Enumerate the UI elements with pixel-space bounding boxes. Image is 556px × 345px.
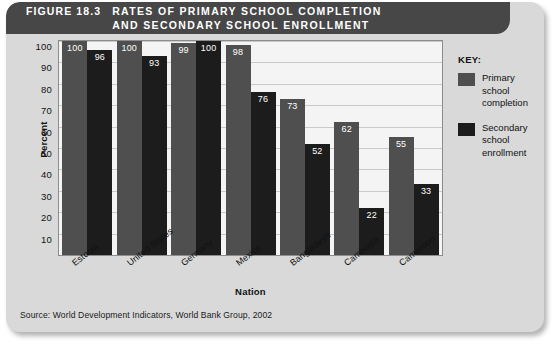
bar-value-label: 100 xyxy=(117,43,142,53)
y-tick-30: 30 xyxy=(26,190,52,201)
bar-value-label: 55 xyxy=(389,139,414,149)
bar-group: 6222 xyxy=(333,41,385,255)
bar-group: 99100 xyxy=(170,41,222,255)
legend-label: Primary school completion xyxy=(482,72,542,110)
bars-layer: 1009610093991009876735262225533 xyxy=(59,41,442,255)
bar: 93 xyxy=(142,56,167,255)
bar-group: 10096 xyxy=(61,41,113,255)
y-tick-100: 100 xyxy=(26,41,52,52)
bar-value-label: 98 xyxy=(226,47,251,57)
bar-value-label: 62 xyxy=(334,124,359,134)
figure-number: FIGURE 18.3 xyxy=(26,5,101,17)
bar-value-label: 52 xyxy=(305,146,330,156)
bar-group: 10093 xyxy=(116,41,168,255)
bar-group: 7352 xyxy=(279,41,331,255)
x-axis-tick-labels: EstoniaUnited StatesGermanyMexicoBanglad… xyxy=(58,258,443,304)
bar-value-label: 22 xyxy=(359,210,384,220)
y-tick-10: 10 xyxy=(26,233,52,244)
bar-value-label: 99 xyxy=(171,45,196,55)
y-tick-70: 70 xyxy=(26,105,52,116)
bar: 100 xyxy=(196,41,221,255)
bar-value-label: 100 xyxy=(196,43,221,53)
chart-legend: KEY: Primary school completionSecondary … xyxy=(458,54,542,171)
bar-value-label: 96 xyxy=(87,52,112,62)
y-axis-tick-labels: 102030405060708090100 xyxy=(26,40,52,256)
bar-value-label: 93 xyxy=(142,58,167,68)
legend-items: Primary school completionSecondary schoo… xyxy=(458,72,542,159)
y-tick-80: 80 xyxy=(26,83,52,94)
bar: 76 xyxy=(251,92,276,255)
source-note: Source: World Development Indicators, Wo… xyxy=(20,310,272,320)
title-row: FIGURE 18.3 RATES OF PRIMARY SCHOOL COMP… xyxy=(26,5,510,32)
legend-item: Primary school completion xyxy=(458,72,542,110)
bar-group: 5533 xyxy=(388,41,440,255)
bar: 62 xyxy=(334,122,359,255)
y-tick-90: 90 xyxy=(26,62,52,73)
bar-value-label: 73 xyxy=(280,101,305,111)
legend-item: Secondary school enrollment xyxy=(458,122,542,160)
y-tick-50: 50 xyxy=(26,148,52,159)
plot-area: 1009610093991009876735262225533 xyxy=(58,40,443,256)
y-tick-60: 60 xyxy=(26,126,52,137)
bar: 98 xyxy=(226,45,251,255)
bar: 100 xyxy=(117,41,142,255)
bar: 100 xyxy=(62,41,87,255)
figure-title: RATES OF PRIMARY SCHOOL COMPLETION AND S… xyxy=(112,5,382,32)
bar: 73 xyxy=(280,99,305,255)
bar-value-label: 33 xyxy=(414,186,439,196)
bar: 55 xyxy=(389,137,414,255)
legend-swatch xyxy=(458,123,475,136)
bar-value-label: 76 xyxy=(251,94,276,104)
bar: 99 xyxy=(171,43,196,255)
legend-label: Secondary school enrollment xyxy=(482,122,527,160)
figure-card: FIGURE 18.3 RATES OF PRIMARY SCHOOL COMP… xyxy=(6,2,544,332)
bar-group: 9876 xyxy=(225,41,277,255)
legend-title: KEY: xyxy=(458,54,542,65)
legend-swatch xyxy=(458,73,475,86)
y-tick-20: 20 xyxy=(26,212,52,223)
chart-region: Percent 102030405060708090100 1009610093… xyxy=(6,34,544,304)
bar: 96 xyxy=(87,50,112,255)
bar-value-label: 100 xyxy=(62,43,87,53)
x-axis-title: Nation xyxy=(58,286,443,297)
figure-title-bar: FIGURE 18.3 RATES OF PRIMARY SCHOOL COMP… xyxy=(6,2,510,34)
y-tick-40: 40 xyxy=(26,169,52,180)
